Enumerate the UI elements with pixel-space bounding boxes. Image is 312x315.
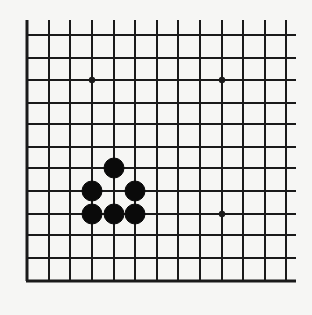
black-stone	[82, 204, 102, 224]
star-point	[89, 77, 95, 83]
black-stone	[82, 181, 102, 201]
grid-lines	[26, 20, 296, 281]
go-board	[0, 0, 312, 315]
black-stone	[104, 204, 124, 224]
star-point	[219, 211, 225, 217]
star-point	[219, 77, 225, 83]
black-stone	[104, 158, 124, 178]
black-stone	[125, 204, 145, 224]
black-stone	[125, 181, 145, 201]
